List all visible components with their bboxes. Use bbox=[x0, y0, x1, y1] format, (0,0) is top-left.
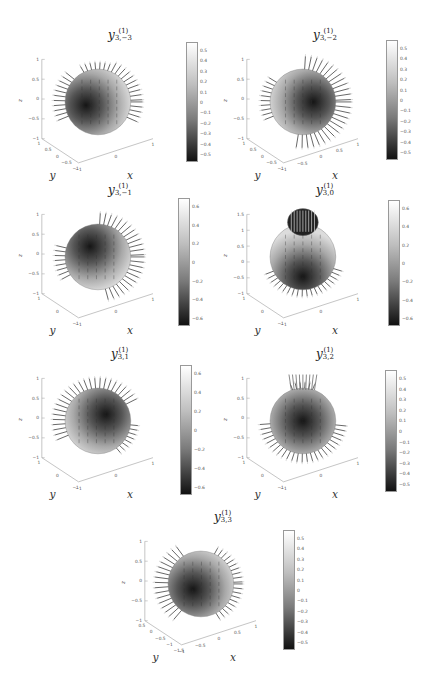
z-tick-label: −0.5 bbox=[28, 116, 39, 121]
plot-title: y(1)3,−1 bbox=[45, 183, 195, 197]
x-tick-label: −1 bbox=[75, 486, 82, 491]
x-tick-label: 0 bbox=[217, 636, 220, 641]
colorbar bbox=[180, 365, 192, 495]
colorbar-tick-label: −0.4 bbox=[200, 142, 211, 147]
x-tick-label: 0 bbox=[114, 154, 117, 159]
z-tick-label: −0.5 bbox=[131, 598, 142, 603]
sphere-plot: 1.510.50−0.5−1z10−1y−101x bbox=[215, 197, 385, 342]
colorbar-tick-label: 0 bbox=[297, 588, 300, 593]
sphere-plot: 10.50−0.5−1z10.50−0.5−1y−1−0.500.51x bbox=[215, 42, 385, 187]
colorbar-tick-label: 0.1 bbox=[297, 578, 304, 583]
x-axis-label: x bbox=[127, 324, 133, 337]
colorbar-tick-label: −0.5 bbox=[297, 640, 308, 645]
colorbar-tick-label: 0 bbox=[194, 428, 197, 433]
plot-title: y(1)3,3 bbox=[148, 510, 298, 524]
title-symbol: y bbox=[111, 347, 118, 361]
colorbar-tick-label: 0.2 bbox=[192, 241, 199, 246]
y-tick-label: 0 bbox=[56, 154, 59, 159]
z-tick-label: −1 bbox=[136, 618, 143, 623]
z-tick-label: 0 bbox=[36, 415, 39, 420]
title-subscript: 3,−3 bbox=[115, 35, 132, 42]
title-symbol: y bbox=[313, 28, 320, 42]
colorbar-tick-label: 0.1 bbox=[399, 418, 406, 423]
colorbar-tick-label: −0.1 bbox=[399, 440, 410, 445]
colorbar bbox=[283, 530, 295, 650]
colorbar-tick-label: −0.3 bbox=[399, 461, 410, 466]
y-axis-label: y bbox=[49, 488, 57, 501]
y-tick-label: −0.5 bbox=[266, 160, 277, 165]
colorbar-tick-label: −0.5 bbox=[400, 150, 411, 155]
colorbar bbox=[386, 40, 398, 160]
z-tick-label: 0.5 bbox=[237, 77, 244, 82]
colorbar-tick-label: 0.5 bbox=[400, 46, 407, 51]
title-subscript: 3,0 bbox=[323, 190, 334, 197]
y-tick-label: 1 bbox=[38, 460, 41, 465]
colorbar-tick-label: 0.2 bbox=[194, 409, 201, 414]
colorbar-tick-label: −0.2 bbox=[297, 609, 308, 614]
z-tick-label: −1 bbox=[238, 291, 245, 296]
colorbar-tick-label: 0.1 bbox=[400, 88, 407, 93]
z-tick-label: 1 bbox=[36, 212, 39, 217]
colorbar-tick-label: −0.4 bbox=[194, 466, 205, 471]
x-tick-label: 0 bbox=[114, 473, 117, 478]
title-symbol: y bbox=[108, 183, 115, 197]
colorbar-tick-label: −0.3 bbox=[200, 131, 211, 136]
x-tick-label: 0 bbox=[319, 473, 322, 478]
x-tick-label: 0.5 bbox=[234, 630, 241, 635]
colorbar-tick-label: 0.5 bbox=[297, 536, 304, 541]
colorbar-tick-label: −0.4 bbox=[399, 471, 410, 476]
y-tick-label: 1 bbox=[243, 460, 246, 465]
y-tick-label: 0.5 bbox=[138, 623, 145, 628]
z-tick-label: 1 bbox=[36, 376, 39, 381]
colorbar-tick-label: 0.4 bbox=[297, 546, 304, 551]
y-axis-label: y bbox=[254, 488, 262, 501]
sphere-plot: 10.50−0.5−1z10−1y−101x bbox=[215, 361, 385, 506]
y-tick-label: −0.5 bbox=[155, 636, 166, 641]
y-tick-label: 1 bbox=[38, 141, 41, 146]
title-subscript: 3,3 bbox=[221, 517, 232, 524]
colorbar-tick-label: −0.2 bbox=[200, 121, 211, 126]
colorbar-tick-label: 0.5 bbox=[399, 376, 406, 381]
x-tick-label: 0.5 bbox=[336, 148, 343, 153]
title-symbol: y bbox=[316, 347, 323, 361]
y-tick-label: 0 bbox=[261, 309, 264, 314]
z-tick-label: 0 bbox=[36, 251, 39, 256]
z-tick-label: 0 bbox=[36, 96, 39, 101]
colorbar-tick-label: 0.4 bbox=[192, 223, 199, 228]
x-tick-label: 1 bbox=[357, 461, 360, 466]
x-tick-label: −1 bbox=[75, 167, 82, 172]
z-tick-label: 1 bbox=[241, 228, 244, 233]
y-axis-label: y bbox=[152, 651, 160, 664]
z-tick-label: −0.5 bbox=[28, 271, 39, 276]
x-tick-label: 1 bbox=[357, 142, 360, 147]
colorbar-tick-label: −0.5 bbox=[399, 482, 410, 487]
plot-panel-p1: y(1)3,−310.50−0.5−1z10.50−0.5−1y−101x bbox=[10, 28, 215, 193]
y-tick-label: 1 bbox=[243, 296, 246, 301]
z-tick-label: 0.5 bbox=[237, 244, 244, 249]
colorbar-tick-label: 0.5 bbox=[200, 48, 207, 53]
y-tick-label: 0 bbox=[261, 473, 264, 478]
colorbar-tick-label: −0.3 bbox=[297, 619, 308, 624]
z-tick-label: −1 bbox=[238, 136, 245, 141]
x-tick-label: −0.5 bbox=[195, 643, 206, 648]
colorbar-tick-label: −0.1 bbox=[200, 110, 211, 115]
y-tick-label: 1 bbox=[38, 296, 41, 301]
x-axis-label: x bbox=[230, 651, 236, 664]
colorbar bbox=[388, 200, 400, 326]
z-tick-label: 1.5 bbox=[237, 212, 244, 217]
colorbar-tick-label: −0.2 bbox=[194, 447, 205, 452]
colorbar-tick-label: 0.2 bbox=[200, 79, 207, 84]
colorbar-tick-label: −0.3 bbox=[400, 129, 411, 134]
colorbar-tick-label: 0.3 bbox=[200, 69, 207, 74]
sphere-plot: 10.50−0.5−1z0.50−0.5−1−1.5y−1−0.500.51x bbox=[113, 524, 283, 669]
sphere-surface bbox=[65, 69, 131, 135]
sphere-plot: 10.50−0.5−1z10−1y−101x bbox=[10, 361, 180, 506]
y-tick-label: 0 bbox=[56, 473, 59, 478]
sphere-surface bbox=[65, 388, 131, 454]
y-tick-label: 0 bbox=[150, 629, 153, 634]
sphere-plot: 10.50−0.5−1z10.50−0.5−1y−101x bbox=[10, 42, 180, 187]
y-tick-label: 0.5 bbox=[45, 147, 52, 152]
x-tick-label: −1 bbox=[280, 167, 287, 172]
title-subscript: 3,2 bbox=[323, 354, 334, 361]
x-axis-label: x bbox=[332, 169, 338, 182]
